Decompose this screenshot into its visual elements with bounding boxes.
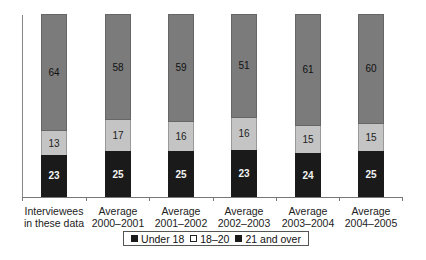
- bar-segment-18-20: 15: [358, 124, 384, 151]
- legend-label: 21 and over: [245, 233, 300, 245]
- legend-item-under-18: Under 18: [131, 233, 184, 245]
- data-label: 15: [302, 134, 313, 145]
- x-axis-tick: [276, 197, 277, 201]
- x-axis-tick: [213, 197, 214, 201]
- x-axis-tick: [86, 197, 87, 201]
- bar-segment-under-18: 25: [105, 151, 131, 197]
- data-label: 61: [302, 64, 313, 75]
- x-axis-tick: [22, 197, 23, 201]
- data-label: 15: [365, 132, 376, 143]
- bar-stack: 641323: [41, 14, 67, 197]
- bar-segment-21-and-over: 51: [231, 14, 257, 118]
- x-axis-tick: [149, 197, 150, 201]
- data-label: 51: [238, 60, 249, 71]
- data-label: 23: [48, 170, 59, 181]
- bar-segment-18-20: 16: [231, 118, 257, 151]
- bar-segment-under-18: 25: [358, 151, 384, 197]
- data-label: 59: [175, 62, 186, 73]
- data-label: 58: [112, 62, 123, 73]
- bar-stack: 591625: [168, 14, 194, 197]
- y-axis-line: [22, 15, 23, 197]
- bar-segment-18-20: 17: [105, 120, 131, 151]
- bar-stack: 611524: [295, 14, 321, 197]
- bar-stack: 601525: [358, 14, 384, 197]
- data-label: 60: [365, 63, 376, 74]
- bar-stack: 511623: [231, 14, 257, 197]
- legend-item-21-and-over: 21 and over: [235, 233, 300, 245]
- x-axis-line: [22, 197, 402, 198]
- bar-stack: 581725: [105, 14, 131, 197]
- x-tick-label: Average2004–2005: [331, 205, 411, 229]
- bar-segment-21-and-over: 59: [168, 14, 194, 122]
- bar-segment-18-20: 13: [41, 131, 67, 155]
- bar-segment-under-18: 25: [168, 151, 194, 197]
- x-tick-label-line: Average: [331, 205, 411, 217]
- stacked-bar-chart: 641323581725591625511623611524601525 Int…: [0, 0, 426, 260]
- x-axis-tick: [339, 197, 340, 201]
- legend-swatch-21-and-over: [235, 235, 242, 242]
- bar-segment-under-18: 23: [231, 150, 257, 197]
- legend: Under 18 18–20 21 and over: [123, 231, 309, 246]
- data-label: 25: [175, 169, 186, 180]
- legend-item-18-20: 18–20: [190, 233, 229, 245]
- data-label: 17: [112, 130, 123, 141]
- data-label: 24: [302, 170, 313, 181]
- data-label: 13: [48, 138, 59, 149]
- data-label: 23: [238, 168, 249, 179]
- data-label: 16: [175, 131, 186, 142]
- bar-segment-under-18: 23: [41, 155, 67, 197]
- bar-segment-21-and-over: 61: [295, 14, 321, 126]
- data-label: 25: [365, 169, 376, 180]
- data-label: 25: [112, 169, 123, 180]
- x-tick-label-line: 2004–2005: [331, 217, 411, 229]
- legend-label: Under 18: [141, 233, 184, 245]
- x-axis-tick: [402, 197, 403, 201]
- bar-segment-under-18: 24: [295, 153, 321, 197]
- legend-swatch-under-18: [131, 235, 138, 242]
- bar-segment-21-and-over: 64: [41, 14, 67, 131]
- data-label: 64: [48, 67, 59, 78]
- legend-swatch-18-20: [190, 235, 197, 242]
- data-label: 16: [238, 128, 249, 139]
- legend-label: 18–20: [200, 233, 229, 245]
- bar-segment-18-20: 16: [168, 122, 194, 151]
- bar-segment-21-and-over: 58: [105, 14, 131, 120]
- bar-segment-18-20: 15: [295, 126, 321, 153]
- bar-segment-21-and-over: 60: [358, 14, 384, 124]
